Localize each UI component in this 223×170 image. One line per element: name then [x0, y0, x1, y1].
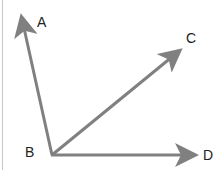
label-d: D	[203, 147, 213, 163]
ray-ba	[22, 19, 52, 155]
ray-bc	[52, 52, 178, 155]
diagram-canvas: A C B D	[0, 0, 223, 170]
angle-diagram: A C B D	[0, 0, 223, 170]
label-c: C	[186, 30, 196, 46]
label-a: A	[37, 14, 47, 30]
label-b: B	[25, 144, 34, 160]
